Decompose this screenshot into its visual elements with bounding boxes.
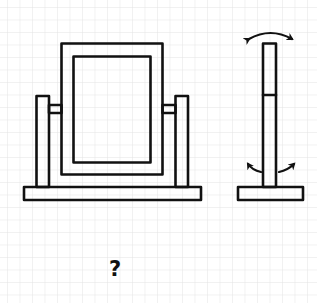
graph-paper-background bbox=[0, 0, 317, 303]
diagram-canvas bbox=[0, 0, 317, 303]
question-mark: ? bbox=[106, 256, 124, 282]
